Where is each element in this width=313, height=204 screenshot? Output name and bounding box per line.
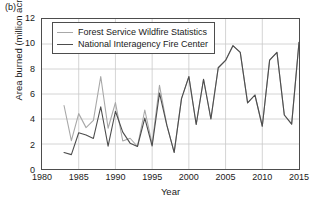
legend-swatch-nifc	[57, 44, 73, 45]
x-tick-label: 1995	[142, 172, 162, 182]
legend-label-nifc: National Interagency Fire Center	[78, 38, 208, 50]
legend-swatch-forest-service	[57, 32, 73, 33]
x-tick-label: 2015	[289, 172, 309, 182]
legend-label-forest-service: Forest Service Wildfire Statistics	[78, 26, 207, 38]
figure-panel-b: (b) 024681012 Area burned (million acres…	[0, 0, 313, 204]
x-axis-label: Year	[41, 186, 300, 197]
x-tick-label: 2000	[179, 172, 199, 182]
legend-item-forest-service: Forest Service Wildfire Statistics	[57, 26, 208, 38]
x-tick-label: 2010	[252, 172, 272, 182]
series-line-nifc	[64, 42, 299, 154]
x-tick-label: 1985	[69, 172, 89, 182]
x-tick-label: 2005	[216, 172, 236, 182]
x-tick-label: 1990	[105, 172, 125, 182]
y-axis-label: Area burned (million acres)	[13, 0, 24, 119]
legend-item-nifc: National Interagency Fire Center	[57, 38, 208, 50]
y-tick-label: 2	[1, 140, 35, 150]
x-tick-label: 1980	[32, 172, 52, 182]
chart-legend: Forest Service Wildfire Statistics Natio…	[52, 22, 215, 54]
y-tick-label: 0	[1, 165, 35, 175]
